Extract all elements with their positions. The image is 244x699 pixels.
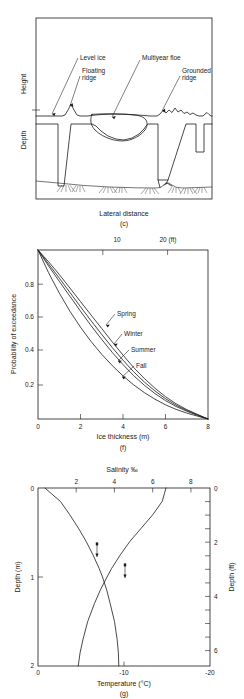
label-grounded-ridge-line1: Grounded [182, 67, 211, 74]
figure-a-panel-letter: (c) [120, 220, 128, 228]
top-axis-tick-20: 20 (ft) [160, 236, 177, 244]
depth-ft-axis-ticks [205, 502, 210, 651]
depth-ft-tick-4: 4 [214, 593, 218, 600]
axis-label-depth: Depth [20, 131, 28, 150]
legend-label-fall: Fall [136, 362, 147, 369]
axis-label-height: Height [20, 74, 28, 94]
salinity-axis-ticks [76, 488, 191, 493]
legend-label-winter: Winter [124, 330, 144, 337]
top-axis-ticks [103, 250, 168, 255]
depth-m-tick-0: 0 [30, 485, 34, 492]
depth-m-axis-title: Depth (m) [14, 561, 22, 592]
x-tick-label-0: 0 [36, 423, 40, 430]
leader-floating-ridge [70, 76, 80, 106]
y-tick-label-04: 0.4 [25, 346, 34, 353]
plot-frame [38, 488, 210, 666]
temperature-tick-0: 0 [36, 669, 40, 676]
leader-grounded-ridge [162, 76, 180, 111]
curve-winter [38, 250, 208, 419]
temperature-tick-minus20: -20 [205, 669, 215, 676]
x-axis-ticks [81, 414, 166, 419]
curve-marker-salinity [95, 542, 98, 557]
salinity-temperature-svg: Salinity ‰ 2 4 6 8 0 1 2 Depth (m) [0, 458, 244, 699]
salinity-tick-4: 4 [113, 478, 117, 485]
curve-salinity [78, 488, 166, 666]
figure-c-panel-letter: (g) [120, 690, 129, 698]
leader-level-ice [52, 58, 78, 114]
y-tick-label-02: 0.2 [25, 381, 34, 388]
arrowhead-multiyear-floe [112, 116, 116, 119]
y-tick-label-08: 0.8 [25, 281, 34, 288]
figure-ice-profile-diagram: Height Depth Level ice [0, 0, 244, 232]
curve-summer [38, 250, 208, 419]
label-floating-ridge-line2: ridge [82, 74, 97, 82]
salinity-tick-8: 8 [189, 478, 193, 485]
top-axis-tick-10: 10 [113, 236, 121, 243]
depth-ft-axis-title: Depth (ft) [228, 562, 236, 591]
plot-frame [38, 250, 208, 419]
plot-frame [36, 18, 212, 199]
curve-fall [38, 250, 208, 419]
legend-label-summer: Summer [131, 346, 156, 353]
grounded-keel-contact [158, 180, 168, 188]
x-tick-label-6: 6 [164, 423, 168, 430]
multiyear-floe-outline [91, 114, 147, 141]
curve-temperature [45, 488, 119, 666]
depth-ft-tick-6: 6 [214, 647, 218, 654]
figure-probability-exceedance-chart: 10 20 (ft) 0.8 0.6 0.4 0.2 0 2 4 6 8 [0, 230, 244, 458]
x-tick-label-8: 8 [206, 423, 210, 430]
x-axis-title: Ice thickness (m) [97, 433, 150, 441]
legend-label-spring: Spring [117, 310, 136, 318]
x-tick-label-4: 4 [121, 423, 125, 430]
curve-marker-temperature [123, 563, 126, 578]
depth-m-tick-1: 1 [30, 574, 34, 581]
figure-salinity-temperature-profile: Salinity ‰ 2 4 6 8 0 1 2 Depth (m) [0, 458, 244, 699]
figure-a-caption: Lateral distance [99, 210, 149, 217]
seabed-line [36, 181, 212, 188]
y-axis-title: Probability of exceedance [10, 294, 18, 374]
label-multiyear-floe: Multiyear floe [142, 54, 181, 62]
temperature-axis-title: Temperature (°C) [97, 680, 151, 688]
temperature-tick-minus10: -10 [119, 669, 129, 676]
figure-b-panel-letter: (f) [120, 444, 127, 452]
y-axis-ticks [38, 284, 43, 385]
top-axis-title: Salinity ‰ [106, 466, 138, 474]
label-level-ice: Level ice [80, 54, 106, 61]
leader-multiyear-floe [112, 60, 140, 117]
curve-spring [38, 250, 208, 419]
ice-profile-svg: Height Depth Level ice [0, 0, 244, 232]
x-tick-label-2: 2 [79, 423, 83, 430]
salinity-tick-6: 6 [151, 478, 155, 485]
seabed-hatching [57, 185, 207, 194]
probability-chart-svg: 10 20 (ft) 0.8 0.6 0.4 0.2 0 2 4 6 8 [0, 230, 244, 458]
depth-ft-tick-2: 2 [214, 539, 218, 546]
depth-m-tick-2: 2 [30, 662, 34, 669]
label-grounded-ridge-line2: ridge [182, 74, 197, 82]
ice-underside-line [36, 124, 212, 186]
depth-ft-tick-0: 0 [214, 485, 218, 492]
y-tick-label-06: 0.6 [25, 313, 34, 320]
salinity-tick-2: 2 [74, 478, 78, 485]
